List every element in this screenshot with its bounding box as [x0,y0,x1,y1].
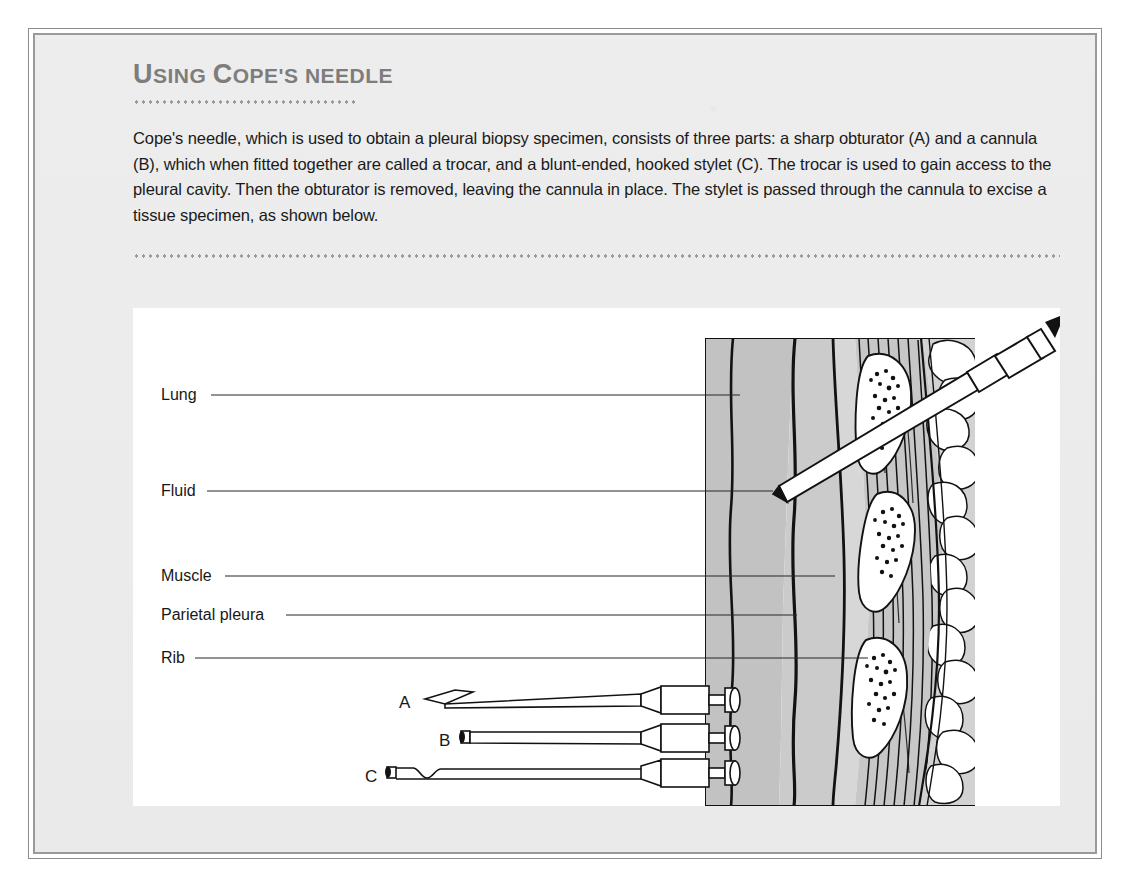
instrument-cannula-letter: B [439,731,450,750]
panel-content: USING COPE'S NEEDLE Cope's needle, which… [133,60,1060,258]
title-part-4: OPE'S [233,64,299,87]
instrument-obturator: A [399,686,740,714]
title-part-0: U [133,59,153,89]
label-lung-text: Lung [161,386,197,403]
instrument-stylet: C [365,759,740,787]
label-rib-text: Rib [161,649,185,666]
cope-needle-illustration: Lung Fluid Muscle Parietal pleura Rib [133,308,1060,806]
label-muscle-text: Muscle [161,567,212,584]
label-fluid-text: Fluid [161,482,196,499]
body-paragraph: Cope's needle, which is used to obtain a… [133,126,1054,228]
instrument-stylet-letter: C [365,767,377,786]
page-title: USING COPE'S NEEDLE [133,60,1060,88]
label-parietal-pleura-text: Parietal pleura [161,606,264,623]
label-lung: Lung [161,386,740,403]
label-fluid: Fluid [161,482,773,499]
label-parietal-pleura: Parietal pleura [161,606,797,623]
instrument-obturator-letter: A [399,693,411,712]
illustration-panel: Lung Fluid Muscle Parietal pleura Rib [133,308,1060,806]
instrument-cannula: B [439,724,740,752]
title-part-3: C [213,59,233,89]
figure-page: USING COPE'S NEEDLE Cope's needle, which… [0,0,1130,887]
title-part-6: NEEDLE [305,64,393,87]
body-dotted-rule [133,254,1060,258]
title-part-1: SING [153,64,206,87]
title-dotted-rule [133,100,355,104]
